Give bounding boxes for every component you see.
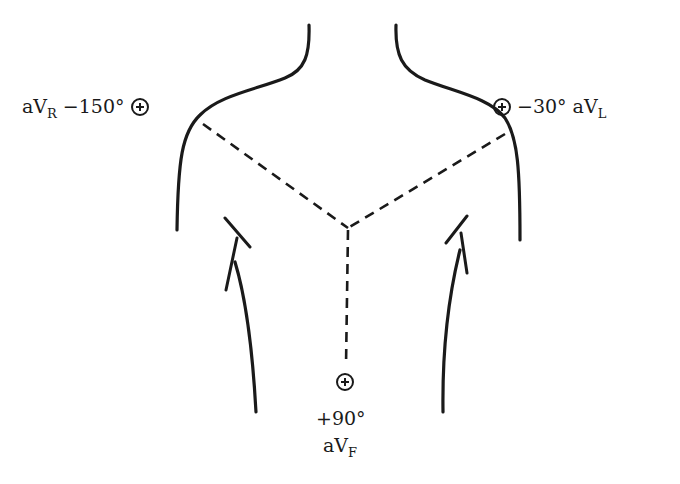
avf-axis-line [346, 230, 348, 366]
avr-lead-name: aV [22, 95, 47, 117]
avl-label: −30°aVL [493, 97, 606, 120]
positive-pole-icon [493, 98, 511, 116]
left-arm-outline [235, 262, 256, 412]
positive-pole-icon [131, 98, 149, 116]
positive-pole-icon [336, 373, 354, 391]
avl-angle: −30° [517, 95, 567, 117]
avf-angle: +90° [316, 409, 366, 428]
left-arrow-head-icon [225, 218, 250, 290]
avf-lead-name: aV [323, 434, 348, 456]
avl-axis-line [348, 134, 505, 228]
avl-lead-name: aV [573, 95, 598, 117]
avf-label: aVF [323, 436, 357, 459]
avr-axis-line [203, 124, 348, 228]
left-neck-shoulder-outline [177, 25, 309, 230]
avf-pole [336, 372, 354, 391]
avr-angle: −150° [63, 95, 125, 117]
right-arm-outline [443, 250, 460, 412]
avr-lead-subscript: R [47, 106, 57, 121]
right-neck-shoulder-outline [396, 25, 520, 240]
avf-lead-subscript: F [348, 445, 357, 460]
avr-label: aVR−150° [22, 97, 149, 120]
avl-lead-subscript: L [598, 106, 607, 121]
